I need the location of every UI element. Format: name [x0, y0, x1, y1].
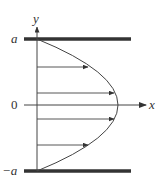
- origin-label: 0: [11, 97, 18, 112]
- bottom-label: −a: [2, 163, 18, 178]
- y-axis-label: y: [31, 11, 39, 26]
- top-label: a: [11, 31, 18, 46]
- velocity-profile-diagram: y x a 0 −a: [0, 0, 163, 186]
- x-axis-label: x: [148, 97, 155, 112]
